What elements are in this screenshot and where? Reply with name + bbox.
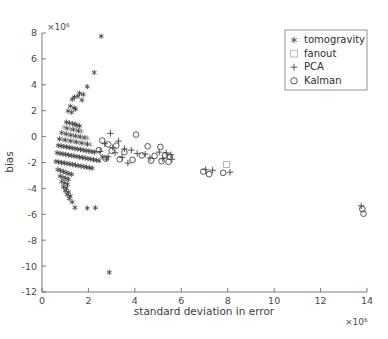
y-axis-title: bias	[3, 151, 15, 173]
data-point-plus	[107, 130, 113, 136]
series-tomogravity	[54, 34, 112, 275]
data-point-plus	[209, 167, 215, 173]
series-kalman	[96, 132, 366, 217]
data-point-circle	[113, 143, 119, 149]
y-tick-label: -12	[21, 286, 37, 297]
data-point-asterisk	[93, 205, 98, 210]
data-point-circle	[158, 144, 164, 150]
y-tick-label: 8	[31, 27, 37, 38]
legend-label: Kalman	[304, 75, 342, 86]
x-tick-label: 14	[361, 295, 373, 306]
data-point-plus	[142, 151, 148, 157]
data-point-circle	[100, 138, 106, 144]
y-tick-label: -6	[28, 209, 37, 220]
data-point-asterisk	[73, 205, 78, 210]
data-point-circle	[133, 132, 139, 138]
x-tick-label: 0	[39, 295, 45, 306]
data-point-circle	[220, 170, 226, 176]
x-tick-label: 12	[315, 295, 327, 306]
data-point-asterisk	[92, 70, 97, 75]
legend-label: fanout	[304, 48, 336, 59]
scatter-plot-figure: -12-10-8-6-4-20246802468101214 tomogravi…	[0, 0, 388, 339]
data-point-asterisk	[99, 34, 104, 39]
y-tick-label: -10	[21, 261, 37, 272]
y-tick-label: -4	[28, 183, 37, 194]
data-point-circle	[159, 158, 165, 164]
data-point-circle	[166, 159, 172, 165]
plot-canvas: -12-10-8-6-4-20246802468101214 tomogravi…	[0, 0, 388, 339]
x-axis-exponent: ×10⁶	[345, 317, 368, 327]
data-point-asterisk	[107, 270, 112, 275]
data-point-circle	[130, 157, 136, 163]
data-point-asterisk	[85, 84, 90, 89]
chart-legend: tomogravityfanoutPCAKalman	[285, 30, 367, 90]
data-point-circle	[105, 142, 111, 148]
y-tick-label: -8	[28, 235, 37, 246]
data-point-plus	[97, 148, 103, 154]
data-point-circle	[109, 148, 115, 154]
y-tick-label: 2	[31, 105, 37, 116]
x-tick-label: 2	[85, 295, 91, 306]
y-axis-exponent: ×10⁶	[47, 22, 70, 32]
legend-label: tomogravity	[304, 34, 365, 45]
data-point-square	[224, 161, 230, 167]
data-point-circle	[96, 147, 102, 153]
legend-label: PCA	[304, 61, 324, 72]
y-tick-label: 4	[31, 79, 37, 90]
data-point-circle	[206, 171, 212, 177]
series-fanout	[224, 161, 230, 167]
y-tick-label: 6	[31, 53, 37, 64]
y-tick-label: 0	[31, 131, 37, 142]
x-axis-title: standard deviation in error	[134, 305, 275, 317]
data-point-asterisk	[80, 97, 85, 102]
data-point-asterisk	[85, 205, 90, 210]
data-point-circle	[145, 143, 151, 149]
data-point-circle	[148, 158, 154, 164]
data-point-plus	[358, 203, 364, 209]
data-point-plus	[227, 169, 233, 175]
data-point-circle	[139, 153, 145, 159]
data-point-asterisk	[70, 199, 75, 204]
data-point-plus	[128, 147, 134, 153]
y-tick-label: -2	[28, 157, 37, 168]
series-pca	[97, 130, 365, 209]
